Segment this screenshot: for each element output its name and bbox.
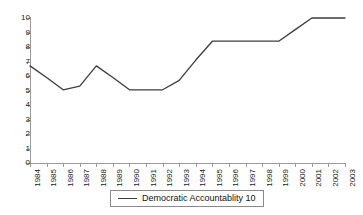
series-plot-area bbox=[0, 0, 363, 215]
legend-line-swatch bbox=[118, 198, 137, 199]
chart-legend: Democratic Accountablity 10 bbox=[110, 190, 264, 207]
legend-entry-label: Democratic Accountablity 10 bbox=[142, 194, 256, 203]
line-chart: 012345678910 198419851986198719881989199… bbox=[0, 0, 363, 215]
series-line-democratic-accountability bbox=[30, 18, 345, 90]
